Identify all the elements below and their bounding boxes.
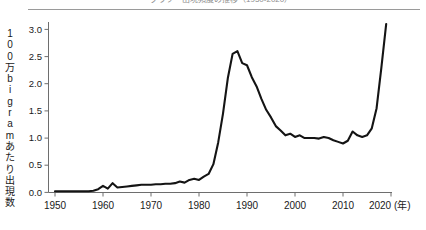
y-tick-label: 3.0	[29, 24, 42, 35]
y-tick-label: 2.0	[29, 78, 42, 89]
plot-area: 3.0 2.5 2.0 1.5 1.0 0.5 0.0	[0, 0, 426, 230]
y-tick-label: 2.5	[29, 51, 42, 62]
x-tick-label: 2020	[369, 200, 392, 211]
x-tick-label: 1970	[140, 200, 163, 211]
x-axis-unit-label: (年)	[394, 199, 411, 211]
x-tick-label: 2000	[284, 200, 307, 211]
data-line-series	[55, 24, 386, 191]
chart-figure: グラフ 出現頻度の推移（1950-2020） 1 0 0 万 b i g r a…	[0, 0, 426, 230]
x-tick-label: 1950	[44, 200, 67, 211]
y-tick-label: 1.5	[29, 105, 42, 116]
y-tick-label: 0.5	[29, 159, 42, 170]
x-tick-label: 1990	[236, 200, 259, 211]
y-tick-label: 1.0	[29, 132, 42, 143]
y-tick-label: 0.0	[29, 187, 42, 198]
x-tick-label: 2010	[332, 200, 355, 211]
x-tick-label: 1960	[92, 200, 115, 211]
x-tick-label: 1980	[188, 200, 211, 211]
